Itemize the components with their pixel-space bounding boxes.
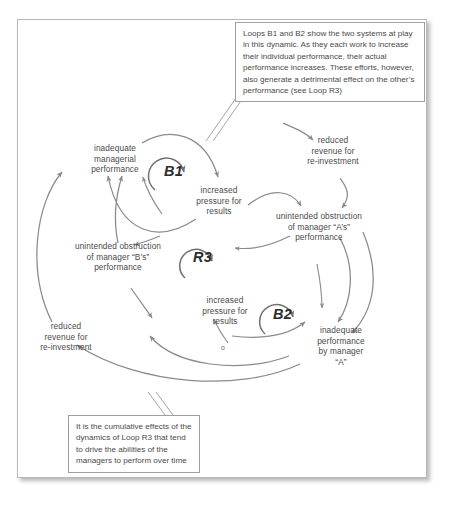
node-reduced-revenue-top: reduced revenue for re-investment (288, 135, 378, 167)
node-increased-pressure-top: increased pressure for results (178, 185, 260, 217)
loop-label-r3: R3 (193, 249, 212, 265)
callout-bottom: It is the cumulative effects of the dyna… (68, 415, 200, 473)
polarity-mark-o: o (221, 344, 225, 351)
node-unintended-obstruction-b: unintended obstruction of manager “B’s” … (54, 241, 182, 273)
loop-label-b1: B1 (164, 163, 183, 179)
diagram-canvas: B1 R3 B2 inadequate managerial performan… (0, 0, 450, 518)
node-reduced-revenue-bottom: reduced revenue for re-investment (22, 321, 110, 353)
node-increased-pressure-bottom: increased pressure for results (184, 295, 266, 327)
node-unintended-obstruction-a: unintended obstruction of manager “A’s” … (258, 211, 380, 243)
callout-top: Loops B1 and B2 show the two systems at … (235, 22, 425, 102)
node-inadequate-managerial-performance: inadequate managerial performance (70, 143, 160, 175)
loop-label-b2: B2 (273, 306, 292, 322)
node-inadequate-performance-a: inadequate performance by manager “A” (303, 325, 379, 367)
